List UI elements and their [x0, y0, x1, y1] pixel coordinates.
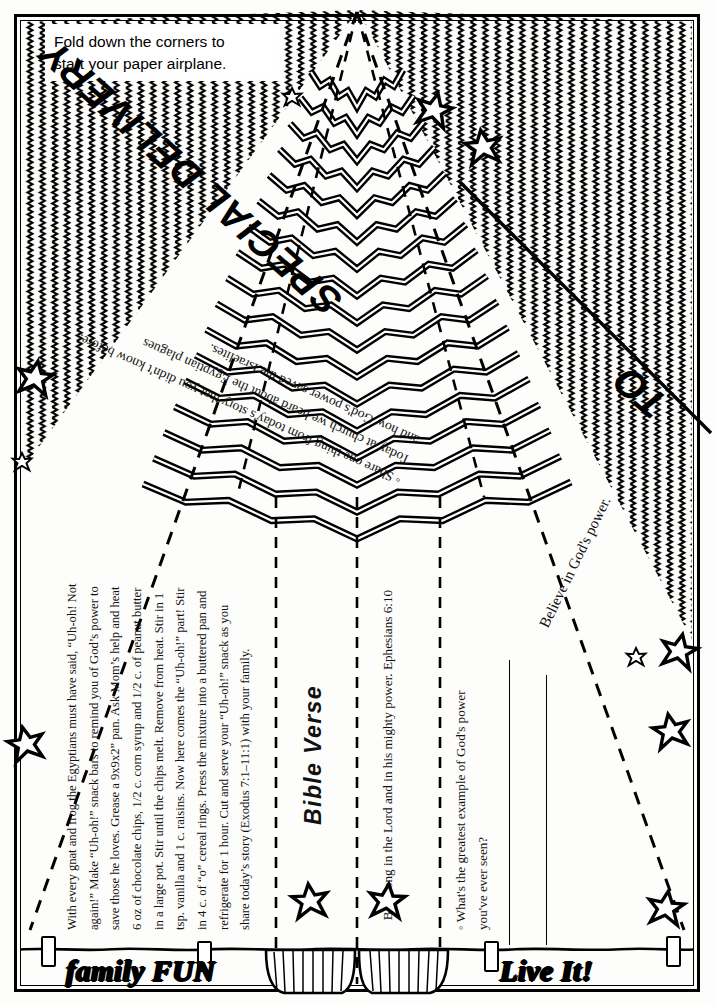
- answer-line-2[interactable]: [546, 675, 547, 945]
- family-fun-label: family FUN: [66, 955, 215, 988]
- to-underline: [458, 180, 714, 436]
- banner-clip-3: [484, 941, 499, 972]
- uh-oh-snack-recipe: With every gnat and frog the Egyptians m…: [62, 580, 257, 930]
- reflection-question: ◦ What's the greatest example of God's p…: [450, 630, 494, 930]
- banner-streamers: [262, 946, 452, 1004]
- question-line2: you've ever seen?: [472, 630, 494, 930]
- fold-instruction-line1: Fold down the corners to: [54, 31, 272, 52]
- bible-verse-text: Be strong in the Lord and in his mighty …: [376, 580, 399, 930]
- bible-verse-heading: Bible Verse: [300, 580, 327, 930]
- banner-clip-4: [666, 936, 681, 967]
- banner-clip-1: [41, 936, 56, 967]
- recipe-text: With every gnat and frog the Egyptians m…: [62, 580, 257, 930]
- answer-line-1[interactable]: [509, 660, 510, 945]
- take-home-page: Fold down the corners to start your pape…: [0, 0, 715, 1006]
- live-it-label: Live It!: [500, 955, 593, 988]
- question-line1: ◦ What's the greatest example of God's p…: [450, 630, 472, 930]
- fold-line-outer-right: [357, 12, 684, 930]
